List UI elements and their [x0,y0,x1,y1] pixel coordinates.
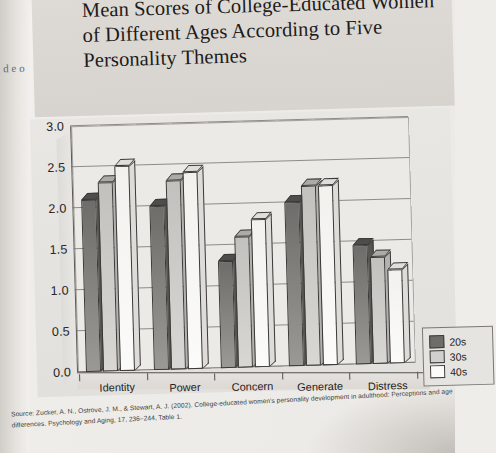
bar-distress-40s[interactable] [388,269,406,364]
legend-label-40s: 40s [450,365,467,377]
legend-item-40s: 40s [430,364,488,379]
legend-swatch-30s [430,350,445,363]
chart-bars [70,117,415,372]
bar-concern-40s[interactable] [251,219,270,367]
x-axis-tick [282,373,283,380]
legend-swatch-20s [429,335,444,348]
y-axis-tick-1.5: 1.5 [49,242,67,256]
x-axis-label-concern: Concern [232,380,274,393]
x-axis-tick [79,374,80,381]
chart-plot-area: 0.00.51.01.52.02.53.0 IdentityPowerConce… [30,108,458,398]
bar-group-power [138,123,212,371]
legend-label-20s: 20s [449,335,466,347]
bar-distress-20s[interactable] [353,245,371,364]
bar-face [370,257,388,364]
legend-label-30s: 30s [450,350,467,362]
y-axis-tick-3.0: 3.0 [46,120,64,134]
y-axis-tick-2.0: 2.0 [48,201,66,215]
legend-item-30s: 30s [430,349,488,364]
figure-header-band: FIGURE 10.1 Mean Scores of College-Educa… [31,0,454,117]
x-axis-label-power: Power [169,380,201,393]
y-axis-tick-0.0: 0.0 [53,365,71,379]
x-axis-tick [350,372,351,379]
bar-face [218,261,236,368]
legend-item-20s: 20s [429,334,487,349]
x-axis-label-identity: Identity [99,381,135,394]
y-axis-tick-0.5: 0.5 [52,324,70,338]
bar-face [388,269,406,364]
y-axis-tick-1.0: 1.0 [51,283,69,297]
bar-concern-20s[interactable] [218,261,236,368]
bar-distress-30s[interactable] [370,257,388,364]
x-axis-tick [147,374,148,381]
bar-power-20s[interactable] [149,206,169,370]
figure-container: FIGURE 10.1 Mean Scores of College-Educa… [0,0,461,453]
bar-group-generate [273,119,347,367]
bar-concern-30s[interactable] [234,236,253,368]
legend-swatch-40s [430,365,445,378]
figure-title: Mean Scores of College-Educated Women of… [82,0,456,73]
bar-group-distress [340,117,414,365]
x-axis-label-generate: Generate [297,380,343,393]
chart-legend: 20s 30s 40s [422,326,495,387]
x-axis-tick [417,372,418,379]
bar-group-concern [205,121,279,369]
bar-generate-20s[interactable] [284,202,304,366]
x-axis-tick [214,373,215,380]
y-axis-tick-2.5: 2.5 [47,161,65,175]
bar-group-identity [70,124,144,372]
